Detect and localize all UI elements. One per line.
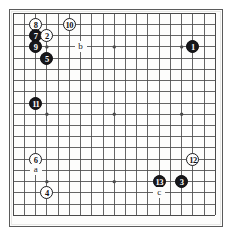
point-label-a: a [30,164,42,175]
stone-black-1[interactable]: 1 [186,40,199,53]
stone-number: 2 [41,30,52,42]
stone-white-2[interactable]: 2 [40,29,53,42]
stone-white-12[interactable]: 12 [186,153,199,166]
star-point [45,45,48,48]
stone-black-5[interactable]: 5 [40,52,53,65]
stone-white-4[interactable]: 4 [40,186,53,199]
stone-number: 10 [64,19,75,31]
star-point [45,113,48,116]
stone-number: 3 [176,176,187,188]
star-point [113,180,116,183]
point-label-c: c [153,187,165,198]
stone-number: 5 [41,53,52,65]
go-diagram: 81072915116121334 bac [0,0,231,238]
star-point [113,113,116,116]
stone-black-9[interactable]: 9 [29,40,42,53]
stone-number: 11 [30,98,41,110]
stone-number: 9 [30,41,41,53]
star-point [45,180,48,183]
star-point [180,45,183,48]
star-point [180,113,183,116]
stone-number: 12 [187,154,198,166]
stone-black-11[interactable]: 11 [29,97,42,110]
star-point [113,45,116,48]
stone-black-3[interactable]: 3 [175,175,188,188]
stone-number: 1 [187,41,198,53]
stone-number: 4 [41,187,52,199]
point-label-b: b [75,41,87,52]
stone-white-10[interactable]: 10 [63,18,76,31]
